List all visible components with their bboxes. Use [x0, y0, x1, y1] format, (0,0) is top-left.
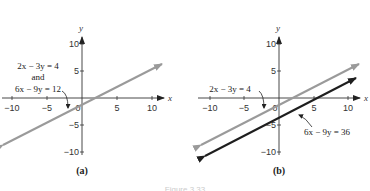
x-axis-label: x: [167, 93, 172, 103]
y-tick-m10: −10: [64, 147, 79, 157]
annotation-arrow-1: [259, 91, 264, 108]
y-tick-5: 5: [74, 66, 79, 76]
y-tick-10: 10: [266, 39, 276, 49]
chart-b: −10 −5 0 5 10 10 5 −5 −10 x y 2x − 3y = …: [198, 23, 368, 177]
annotation-arrow: [62, 91, 68, 108]
x-tick-10: 10: [147, 103, 157, 113]
figure-caption: Figure 3.33: [165, 185, 206, 191]
chart-a: −10 −5 0 5 10 10 5 −5 −10 x y 2x − 3y = …: [2, 23, 172, 177]
x-tick-m10: −10: [4, 103, 19, 113]
eq-label-1: 2x − 3y = 4: [17, 61, 59, 71]
x-tick-5: 5: [114, 103, 119, 113]
panel-a-caption: (a): [76, 165, 88, 177]
x-tick-m10: −10: [202, 103, 217, 113]
line-2x-3y-4: [3, 64, 162, 145]
eq-label-2: 6x − 9y = 12: [15, 84, 61, 94]
x-tick-10: 10: [343, 103, 353, 113]
eq-label-2: 6x − 9y = 36: [304, 127, 351, 137]
eq-label-and: and: [32, 72, 45, 82]
annotation-arrow-2: [299, 115, 312, 127]
y-axis-label: y: [78, 23, 83, 33]
figure: −10 −5 0 5 10 10 5 −5 −10 x y 2x − 3y = …: [0, 0, 370, 191]
y-tick-5: 5: [271, 66, 276, 76]
x-tick-m5: −5: [42, 103, 52, 113]
y-tick-m10: −10: [261, 147, 276, 157]
x-axis-label: x: [363, 93, 368, 103]
y-axis-label: y: [275, 23, 280, 33]
y-tick-10: 10: [69, 39, 79, 49]
x-tick-5: 5: [311, 103, 316, 113]
x-tick-m5: −5: [239, 103, 249, 113]
y-tick-m5: −5: [69, 120, 79, 130]
panel-b-caption: (b): [273, 165, 285, 177]
eq-label-1: 2x − 3y = 4: [209, 84, 251, 94]
